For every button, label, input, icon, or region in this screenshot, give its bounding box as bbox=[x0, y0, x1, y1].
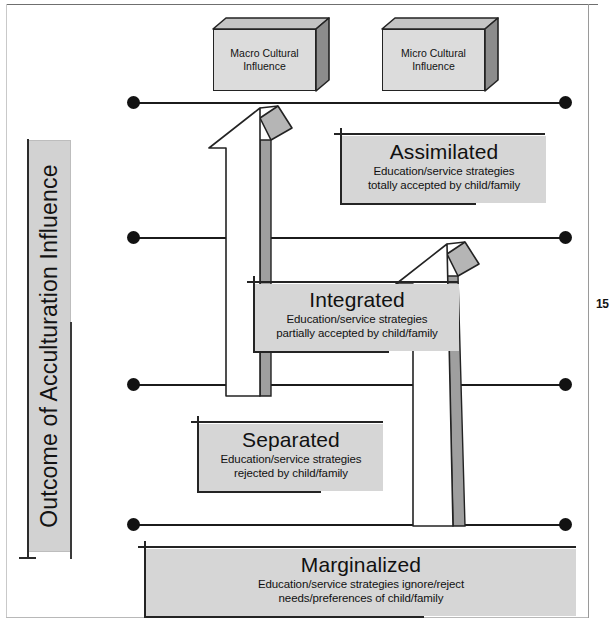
level-dot-3-left bbox=[127, 378, 140, 391]
micro-influence-line1: Micro Cultural bbox=[401, 47, 466, 60]
outcome-marginalized: Marginalized Education/service strategie… bbox=[146, 549, 576, 616]
level-dot-2-right bbox=[559, 231, 572, 244]
micro-cultural-influence-face: Micro Cultural Influence bbox=[382, 29, 485, 91]
marginalized-bottom-rule bbox=[144, 616, 424, 618]
macro-influence-line2: Influence bbox=[243, 60, 286, 73]
assimilated-sub-line2: totally accepted by child/family bbox=[342, 178, 546, 192]
page-border-left bbox=[6, 4, 7, 618]
separated-title: Separated bbox=[199, 427, 383, 452]
axis-caption-tick bbox=[19, 557, 36, 559]
marginalized-sub-line1: Education/service strategies ignore/reje… bbox=[146, 577, 576, 591]
assimilated-top-rule bbox=[340, 133, 545, 135]
level-dot-1-left bbox=[127, 96, 140, 109]
micro-arrow bbox=[393, 232, 513, 532]
page-border-top bbox=[6, 4, 598, 5]
assimilated-sub-line1: Education/service strategies bbox=[342, 164, 546, 178]
level-dot-4-left bbox=[127, 518, 140, 531]
micro-influence-line2: Influence bbox=[412, 60, 455, 73]
separated-bottom-rule bbox=[197, 491, 321, 493]
integrated-bottom-rule bbox=[253, 351, 389, 353]
integrated-title: Integrated bbox=[255, 287, 459, 312]
separated-sub-line2: rejected by child/family bbox=[199, 466, 383, 480]
macro-cultural-influence-face: Macro Cultural Influence bbox=[213, 29, 316, 91]
integrated-sub-line2: partially accepted by child/family bbox=[255, 326, 459, 340]
axis-caption-label: Outcome of Acculturation Influence bbox=[28, 140, 71, 552]
integrated-top-rule bbox=[253, 281, 458, 283]
page-border-right bbox=[588, 4, 589, 618]
marginalized-top-rule bbox=[144, 546, 576, 548]
assimilated-title: Assimilated bbox=[342, 139, 546, 164]
integrated-sub-line1: Education/service strategies bbox=[255, 312, 459, 326]
separated-sub-line1: Education/service strategies bbox=[199, 452, 383, 466]
outcome-integrated: Integrated Education/service strategies … bbox=[255, 284, 459, 351]
level-dot-1-right bbox=[559, 96, 572, 109]
separated-top-rule bbox=[197, 421, 383, 423]
marginalized-title: Marginalized bbox=[146, 552, 576, 577]
outcome-separated: Separated Education/service strategies r… bbox=[199, 424, 383, 491]
level-dot-4-right bbox=[559, 518, 572, 531]
macro-influence-line1: Macro Cultural bbox=[230, 47, 298, 60]
diagram-page: 15 Outcome of Acculturation Influence bbox=[0, 0, 611, 625]
assimilated-bottom-rule bbox=[340, 203, 476, 205]
marginalized-sub-line2: needs/preferences of child/family bbox=[146, 591, 576, 605]
outcome-assimilated: Assimilated Education/service strategies… bbox=[342, 136, 546, 203]
page-number: 15 bbox=[596, 297, 611, 311]
level-dot-3-right bbox=[559, 378, 572, 391]
level-dot-2-left bbox=[127, 231, 140, 244]
